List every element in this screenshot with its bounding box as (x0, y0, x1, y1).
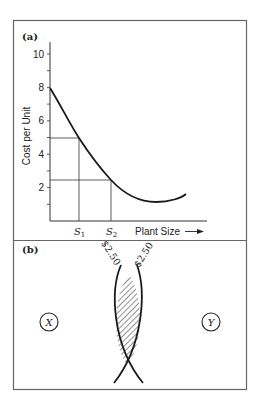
panel-b: (b) $2.50 $2.50 X Y (22, 238, 220, 383)
panel-a-label: (a) (22, 31, 38, 42)
s2-guide (50, 180, 111, 221)
y-axis-label: Cost per Unit (21, 107, 32, 166)
figure: (a) 2 4 6 8 10 Cost per Unit (0, 0, 259, 404)
y-tick-label: 4 (38, 149, 44, 160)
arrow-right-icon (185, 229, 204, 234)
cost-curve (50, 88, 186, 202)
panel-b-label: (b) (22, 244, 38, 255)
city-x-label: X (44, 317, 53, 328)
x-axis-label: Plant Size (135, 226, 180, 237)
y-tick-label: 10 (33, 49, 45, 60)
y-tick-labels: 2 4 6 8 10 (33, 49, 45, 193)
city-y: Y (202, 313, 220, 331)
isoline-right-label: $2.50 (131, 240, 155, 269)
city-y-label: Y (208, 317, 216, 328)
city-x: X (40, 313, 58, 331)
panel-a: (a) 2 4 6 8 10 Cost per Unit (21, 31, 207, 239)
x-markers: S1 S2 (74, 226, 117, 239)
isoline-left-label: $2.50 (99, 238, 123, 267)
s1-label: S1 (74, 226, 85, 239)
y-tick-label: 2 (38, 182, 44, 193)
s1-guide (50, 138, 79, 221)
y-tick-label: 6 (38, 115, 44, 126)
y-tick-label: 8 (38, 82, 44, 93)
s2-label: S2 (106, 226, 117, 239)
overlap-region (116, 275, 140, 365)
